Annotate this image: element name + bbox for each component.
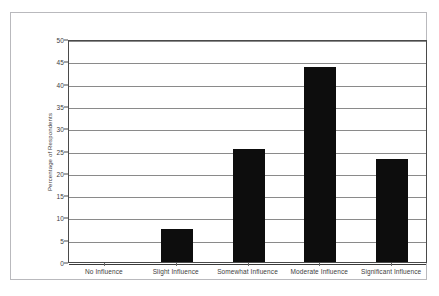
x-axis-tick-label: Slight Influence [153,268,199,275]
y-axis-tick-label: 20 [42,170,64,177]
gridline [69,130,426,131]
x-axis-tick-mark [176,263,177,266]
x-axis-tick-label: Somewhat Influence [217,268,278,275]
gridline [69,86,426,87]
bar [376,159,408,262]
y-axis-tick-label: 15 [42,193,64,200]
gridline [69,63,426,64]
bar [233,149,265,262]
x-axis-tick-mark [104,263,105,266]
x-axis-tick-labels: No InfluenceSlight InfluenceSomewhat Inf… [68,265,427,281]
gridline [69,108,426,109]
plot-area [68,40,427,263]
y-axis-tick-labels: 05101520253035404550 [38,40,64,263]
y-axis-tick-label: 35 [42,103,64,110]
x-axis-tick-label: No Influence [85,268,123,275]
x-axis-tick-mark [391,263,392,266]
y-axis-tick-label: 30 [42,126,64,133]
y-axis-tick-label: 25 [42,148,64,155]
bar [304,67,336,262]
x-axis-tick-mark [319,263,320,266]
y-axis-tick-label: 40 [42,81,64,88]
y-axis-tick-label: 5 [42,237,64,244]
y-axis-tick-label: 10 [42,215,64,222]
x-axis-tick-label: Significant Influence [361,268,421,275]
cropped-title-text [0,0,439,3]
x-axis-tick-label: Moderate Influence [291,268,348,275]
gridline [69,41,426,42]
x-axis-tick-mark [248,263,249,266]
y-axis-tick-label: 50 [42,37,64,44]
y-axis-tick-label: 0 [42,260,64,267]
chart-figure-frame: Percentage of Respondents 05101520253035… [10,12,427,280]
bar [161,229,193,262]
y-axis-tick-label: 45 [42,59,64,66]
